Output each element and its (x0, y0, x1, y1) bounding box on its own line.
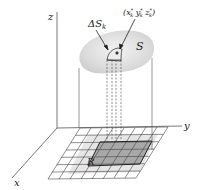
point-label: (x*k y*k z*k) (123, 7, 155, 18)
region-grid (48, 127, 168, 179)
region-label: R (86, 156, 95, 167)
surface-integral-diagram: z y x S ΔSk (x*k y*k z*k) R (0, 0, 202, 190)
x-axis-label: x (14, 177, 20, 188)
z-axis-label: z (47, 11, 54, 22)
y-axis-label: y (183, 120, 190, 131)
x-axis (12, 128, 57, 178)
sample-point (116, 52, 118, 54)
surface-label: S (136, 40, 144, 53)
patch-label: ΔSk (87, 18, 106, 31)
